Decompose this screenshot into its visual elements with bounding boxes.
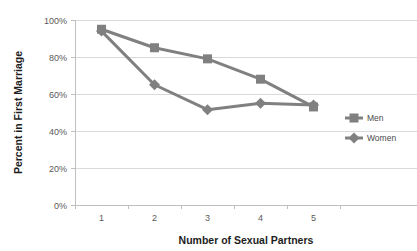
series-line-women (102, 31, 314, 110)
legend-marker-women (349, 133, 360, 144)
data-point-men-4 (256, 75, 265, 84)
y-axis-tick-label: 20% (49, 164, 67, 174)
legend-item-men[interactable]: Men (345, 113, 384, 123)
line-chart: 0%20%40%60%80%100%12345Number of Sexual … (0, 0, 417, 251)
y-axis-tick-label: 100% (44, 16, 67, 26)
legend-label-women: Women (367, 133, 396, 143)
legend-marker-men (350, 114, 359, 123)
x-axis-tick-label: 1 (99, 213, 104, 223)
y-axis-tick-label: 80% (49, 53, 67, 63)
data-point-women-4 (255, 98, 266, 109)
y-axis-tick-label: 60% (49, 90, 67, 100)
x-axis-tick-label: 5 (311, 213, 316, 223)
legend-label-men: Men (367, 113, 384, 123)
x-axis-tick-label: 2 (152, 213, 157, 223)
data-point-men-2 (150, 43, 159, 52)
y-axis-tick-label: 0% (54, 201, 67, 211)
y-axis-title: Percent in First Marriage (12, 51, 24, 174)
chart-figure: 0%20%40%60%80%100%12345Number of Sexual … (0, 0, 417, 251)
y-axis-tick-label: 40% (49, 127, 67, 137)
legend-item-women[interactable]: Women (345, 133, 396, 144)
x-axis-title: Number of Sexual Partners (179, 234, 314, 246)
x-axis-tick-label: 4 (258, 213, 263, 223)
x-axis-tick-label: 3 (205, 213, 210, 223)
data-point-men-3 (203, 54, 212, 63)
data-point-women-3 (202, 104, 213, 115)
series-line-men (102, 29, 314, 107)
